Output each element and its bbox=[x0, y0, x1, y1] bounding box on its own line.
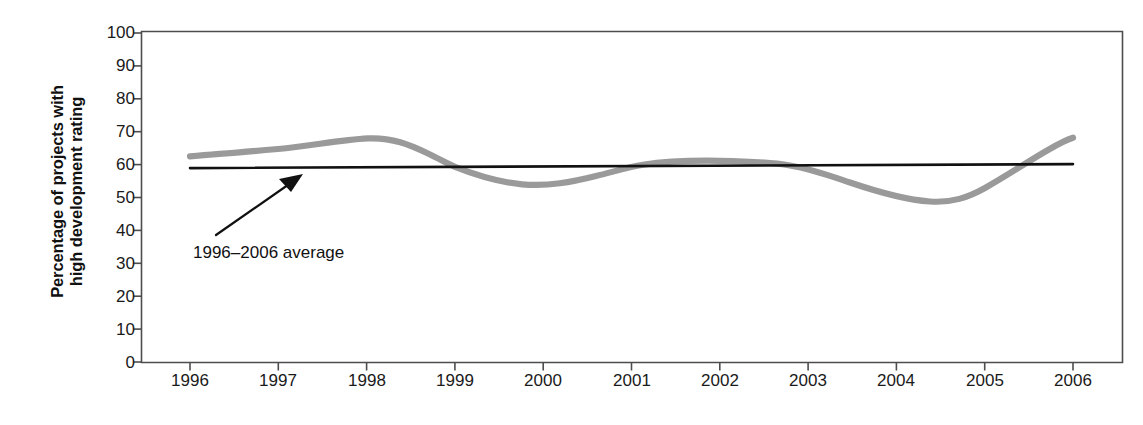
x-tick-label-2006: 2006 bbox=[1028, 371, 1118, 391]
x-tick-label-2000: 2000 bbox=[498, 371, 588, 391]
x-axis-tick-labels: 1996 1997 1998 1999 2000 2001 2002 2003 … bbox=[0, 0, 1143, 425]
x-tick-label-2005: 2005 bbox=[940, 371, 1030, 391]
annotation-average-label: 1996–2006 average bbox=[193, 243, 344, 263]
x-tick-label-2004: 2004 bbox=[851, 371, 941, 391]
x-tick-label-2002: 2002 bbox=[675, 371, 765, 391]
x-tick-label-1998: 1998 bbox=[322, 371, 412, 391]
x-tick-label-2001: 2001 bbox=[587, 371, 677, 391]
x-tick-label-1999: 1999 bbox=[410, 371, 500, 391]
x-tick-label-1997: 1997 bbox=[233, 371, 323, 391]
x-tick-label-1996: 1996 bbox=[145, 371, 235, 391]
chart-figure: Percentage of projects with high develop… bbox=[0, 0, 1143, 425]
x-tick-label-2003: 2003 bbox=[763, 371, 853, 391]
